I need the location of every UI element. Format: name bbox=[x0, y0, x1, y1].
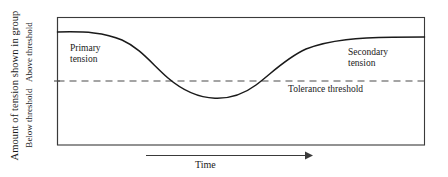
primary-tension-annotation: Primary tension bbox=[70, 43, 101, 64]
tolerance-threshold-annotation: Tolerance threshold bbox=[288, 84, 363, 95]
tension-over-time-figure: Amount of tension shown in group Above t… bbox=[0, 0, 448, 177]
time-axis-arrowhead bbox=[305, 152, 313, 160]
x-axis-title: Time bbox=[195, 159, 216, 170]
secondary-tension-annotation: Secondary tension bbox=[348, 47, 388, 68]
plot-area bbox=[0, 0, 448, 177]
plot-svg bbox=[0, 0, 448, 177]
